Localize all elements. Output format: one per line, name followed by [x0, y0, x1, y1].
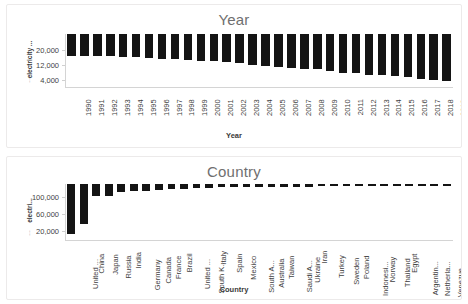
x-tick-slot: 2014: [376, 89, 389, 127]
bar-slot: [298, 34, 311, 87]
bar[interactable]: [326, 34, 335, 71]
x-tick-slot: Argentin...: [403, 242, 416, 286]
x-tick-slot: Spain: [215, 242, 228, 286]
bar[interactable]: [343, 184, 351, 186]
x-tick-label: 2019: [455, 83, 463, 100]
x-tick-slot: 2013: [363, 89, 376, 127]
bar[interactable]: [93, 34, 102, 56]
x-tick-slot: Venezue...: [428, 242, 441, 286]
x-tick-slot: 2002: [220, 89, 233, 127]
bar[interactable]: [248, 34, 257, 65]
bar[interactable]: [105, 184, 113, 196]
bar[interactable]: [368, 184, 376, 186]
bar[interactable]: [268, 184, 276, 187]
bar[interactable]: [171, 34, 180, 59]
country-chart-plot: electri...…20,00060,000100,000United ...…: [7, 157, 461, 299]
bar[interactable]: [243, 184, 251, 187]
x-tick-slot: 2008: [298, 89, 311, 127]
year-chart-plot: electricity ...…4,00012,00020,0001990199…: [7, 5, 461, 147]
bar[interactable]: [355, 184, 363, 186]
bar[interactable]: [230, 184, 238, 187]
bar[interactable]: [184, 34, 193, 60]
bar[interactable]: [168, 184, 176, 189]
bar[interactable]: [365, 34, 374, 75]
bar[interactable]: [404, 34, 413, 77]
bar[interactable]: [180, 184, 188, 189]
x-tick-slot: Malaysia: [440, 242, 453, 286]
x-tick-slot: 2000: [194, 89, 207, 127]
bar-slot: [117, 34, 130, 87]
bar[interactable]: [280, 184, 288, 187]
bar[interactable]: [305, 184, 313, 187]
bar-slot: [311, 34, 324, 87]
bar[interactable]: [418, 184, 426, 186]
bar-slot: [324, 34, 337, 87]
country-chart-card[interactable]: Country electri...…20,00060,000100,000Un…: [6, 156, 462, 300]
bar[interactable]: [391, 34, 400, 76]
x-tick-slot: Taiwan: [265, 242, 278, 286]
bar[interactable]: [80, 184, 88, 224]
bar-slot: [363, 34, 376, 87]
bar[interactable]: [218, 184, 226, 187]
bar[interactable]: [318, 184, 326, 186]
bar[interactable]: [443, 184, 451, 186]
bar[interactable]: [210, 34, 219, 61]
x-tick-slot: 1999: [181, 89, 194, 127]
bar[interactable]: [352, 34, 361, 73]
bar-slot: [285, 34, 298, 87]
bar[interactable]: [92, 184, 100, 196]
bar[interactable]: [155, 184, 163, 190]
year-chart-card[interactable]: Year electricity ...…4,00012,00020,00019…: [6, 4, 462, 148]
bar[interactable]: [393, 184, 401, 186]
bar-slot: [272, 34, 285, 87]
bar[interactable]: [313, 34, 322, 69]
bar-slot: [233, 34, 246, 87]
bar[interactable]: [430, 184, 438, 186]
bar[interactable]: [222, 34, 231, 62]
bar[interactable]: [300, 34, 309, 69]
bar-slot: [350, 34, 363, 87]
bar[interactable]: [380, 184, 388, 186]
x-tick-slot: Russia: [103, 242, 116, 286]
bar[interactable]: [235, 34, 244, 63]
bar[interactable]: [80, 34, 89, 56]
bar[interactable]: [106, 34, 115, 56]
x-tick-slot: France: [153, 242, 166, 286]
bar[interactable]: [261, 34, 270, 66]
bar[interactable]: [67, 184, 75, 234]
x-tick-slot: 2009: [311, 89, 324, 127]
bar[interactable]: [132, 34, 141, 57]
bar[interactable]: [117, 184, 125, 192]
bar[interactable]: [293, 184, 301, 187]
bar-slot: [228, 184, 241, 240]
bar[interactable]: [405, 184, 413, 186]
bar[interactable]: [119, 34, 128, 57]
bar[interactable]: [67, 34, 76, 56]
bar[interactable]: [330, 184, 338, 186]
bar-slot: [401, 34, 414, 87]
bar[interactable]: [287, 34, 296, 68]
x-tick-slot: 1996: [143, 89, 156, 127]
bar[interactable]: [274, 34, 283, 67]
bar[interactable]: [158, 34, 167, 59]
bar[interactable]: [255, 184, 263, 187]
x-tick-slot: 1998: [169, 89, 182, 127]
bar[interactable]: [339, 34, 348, 73]
bar[interactable]: [442, 34, 451, 81]
bar[interactable]: [142, 184, 150, 191]
bar-slot: [65, 184, 78, 240]
year-y-tick-label: 20,000: [6, 46, 59, 55]
bar[interactable]: [205, 184, 213, 188]
bar[interactable]: [429, 34, 438, 80]
bar[interactable]: [378, 34, 387, 75]
country-x-tick-labels: United ...ChinaJapanRussiaIndiaGermanyCa…: [65, 242, 453, 286]
x-tick-slot: 1992: [91, 89, 104, 127]
bar[interactable]: [197, 34, 206, 61]
bar[interactable]: [193, 184, 201, 188]
bar[interactable]: [130, 184, 138, 191]
x-tick-slot: 2012: [350, 89, 363, 127]
bar[interactable]: [417, 34, 426, 79]
bar-slot: [414, 34, 427, 87]
x-tick-slot: Indonesi...: [353, 242, 366, 286]
bar[interactable]: [145, 34, 154, 58]
